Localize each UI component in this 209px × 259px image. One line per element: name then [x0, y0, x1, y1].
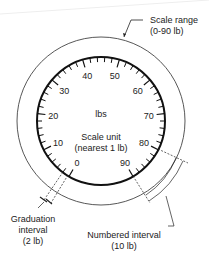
numbered-label: Numbered interval: [87, 230, 161, 240]
dial-number: 40: [82, 71, 92, 81]
dial-tick: [141, 164, 144, 168]
numbered-sub: (10 lb): [111, 241, 137, 251]
dial-tick: [44, 92, 48, 94]
graduation-label-2: interval: [18, 225, 47, 235]
dial-tick: [144, 80, 150, 85]
scale-range-circle: [17, 37, 185, 205]
unit-label: lbs: [95, 109, 107, 119]
scale-range-leader: [124, 20, 143, 37]
dial-tick: [52, 80, 58, 85]
dial-tick: [146, 159, 150, 162]
dial-tick: [48, 86, 52, 89]
scale-range-sub: (0-90 lb): [150, 26, 184, 36]
scale-unit-label: Scale unit: [81, 132, 121, 142]
dial-tick: [37, 128, 42, 129]
dial-tick: [63, 70, 66, 74]
dial-tick: [129, 169, 133, 176]
dial-tick: [136, 70, 139, 74]
dial-tick: [76, 62, 78, 67]
dial-tick: [151, 146, 158, 150]
dial-tick: [37, 114, 45, 115]
dial-numbers: 0102030405060708090: [48, 71, 153, 169]
page-edge: [0, 0, 209, 14]
dial-tick: [69, 66, 72, 70]
dial-tick: [136, 168, 139, 172]
graduation-sub: (2 lb): [23, 236, 44, 246]
dial-tick: [69, 169, 73, 176]
dial-number: 80: [139, 138, 149, 148]
dial-tick: [83, 60, 85, 68]
dial-number: 50: [110, 71, 120, 81]
dial-tick: [63, 168, 66, 172]
dial-tick: [57, 74, 60, 78]
dial-tick: [154, 92, 158, 94]
dial-tick: [157, 114, 165, 115]
dial-tick: [117, 60, 119, 68]
dial-tick: [141, 74, 144, 78]
scale-range-label: Scale range: [150, 15, 198, 25]
graduation-label: Graduation: [11, 214, 56, 224]
scale-unit-sub: (nearest 1 lb): [74, 143, 127, 153]
dial-number: 0: [74, 158, 79, 168]
scale-dial-diagram: 0102030405060708090 lbs Scale unit (near…: [0, 0, 209, 259]
dial-number: 10: [53, 138, 63, 148]
dial-tick: [57, 164, 60, 168]
dial-tick: [44, 146, 51, 150]
dial-face: [37, 57, 165, 185]
dial-tick: [131, 66, 134, 70]
dial-number: 70: [144, 111, 154, 121]
dial-tick: [52, 159, 56, 162]
dial-number: 20: [48, 111, 58, 121]
dial-number: 60: [133, 86, 143, 96]
dial-tick: [48, 153, 52, 156]
dial-tick: [124, 62, 126, 67]
dial-tick: [150, 86, 154, 89]
dial-number: 90: [120, 158, 130, 168]
dial-tick: [150, 153, 154, 156]
dial-tick: [160, 128, 165, 129]
dial-number: 30: [59, 86, 69, 96]
numbered-bracket: [133, 149, 188, 226]
